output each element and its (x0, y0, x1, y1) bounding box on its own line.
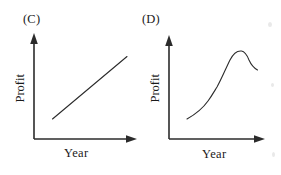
chart-panel-c: (C) Profit Year (0, 0, 141, 175)
y-axis-label-c: Profit (14, 66, 27, 110)
data-curve-d (187, 51, 258, 119)
x-axis-label-d: Year (202, 148, 227, 161)
x-axis-c (34, 135, 137, 143)
y-axis-label-d: Profit (149, 66, 162, 110)
x-axis-arrow-icon-d (254, 135, 265, 143)
y-axis-arrow-icon-c (30, 33, 38, 44)
data-line-c (53, 57, 128, 120)
x-axis-arrow-icon-c (126, 135, 137, 143)
scan-speck (268, 22, 272, 27)
y-axis-c (30, 33, 38, 139)
chart-panel-d: (D) Profit Year (140, 0, 281, 175)
figure-canvas: (C) Profit Year (D) (0, 0, 281, 175)
scan-speck (271, 83, 274, 87)
x-axis-label-c: Year (64, 147, 89, 160)
scan-speck (272, 152, 275, 157)
y-axis-arrow-icon-d (165, 35, 173, 46)
x-axis-d (169, 135, 265, 143)
y-axis-d (165, 35, 173, 139)
